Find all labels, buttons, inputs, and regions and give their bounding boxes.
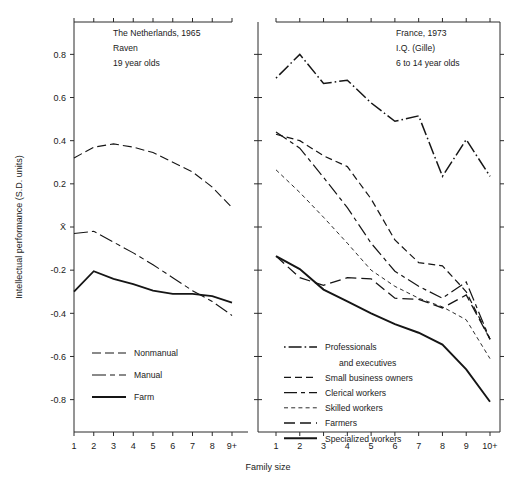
left-panel-title-line: 19 year olds bbox=[113, 58, 160, 68]
x-tick-label: 7 bbox=[190, 441, 195, 451]
x-tick-label: 10+ bbox=[482, 441, 497, 451]
legend-label-r-5: Specialized workers bbox=[325, 434, 401, 444]
y-tick-label: -0.2 bbox=[50, 265, 66, 275]
left-panel-title-line: The Netherlands, 1965 bbox=[113, 28, 201, 38]
x-tick-label: 5 bbox=[150, 441, 155, 451]
y-tick-label: 0.8 bbox=[53, 50, 66, 60]
figure-container: 0.80.60.40.2X̄-0.2-0.4-0.6-0.8123456789+… bbox=[0, 0, 511, 488]
y-tick-label: -0.4 bbox=[50, 309, 66, 319]
legend-label-r-1: Small business owners bbox=[325, 373, 413, 383]
chart-background bbox=[0, 0, 511, 488]
x-tick-label: 8 bbox=[210, 441, 215, 451]
two-panel-line-chart: 0.80.60.40.2X̄-0.2-0.4-0.6-0.8123456789+… bbox=[0, 0, 511, 488]
legend-label-r-0-cont: and executives bbox=[339, 358, 396, 368]
y-tick-label: 0.2 bbox=[53, 179, 66, 189]
x-tick-label: 4 bbox=[131, 441, 136, 451]
y-tick-label: -0.8 bbox=[50, 395, 66, 405]
right-panel-title-line: France, 1973 bbox=[396, 28, 447, 38]
x-tick-label: 2 bbox=[91, 441, 96, 451]
legend-label-1: Manual bbox=[134, 370, 162, 380]
right-panel-title-line: 6 to 14 year olds bbox=[396, 58, 460, 68]
legend-label-r-3: Skilled workers bbox=[325, 403, 383, 413]
x-tick-label: 7 bbox=[416, 441, 421, 451]
legend-label-2: Farm bbox=[134, 392, 154, 402]
y-tick-label: -0.6 bbox=[50, 352, 66, 362]
x-tick-label: 1 bbox=[71, 441, 76, 451]
y-tick-label: 0.4 bbox=[53, 136, 66, 146]
x-tick-label: 1 bbox=[273, 441, 278, 451]
x-axis-title: Family size bbox=[245, 462, 290, 472]
legend-label-r-0: Professionals bbox=[325, 342, 377, 352]
x-tick-label: 2 bbox=[297, 441, 302, 451]
legend-label-0: Nonmanual bbox=[134, 348, 178, 358]
x-tick-label: 8 bbox=[440, 441, 445, 451]
legend-label-r-4: Farmers bbox=[325, 418, 357, 428]
y-axis-title: Intellectual performance (S.D. units) bbox=[14, 155, 24, 299]
y-tick-label: 0.6 bbox=[53, 93, 66, 103]
left-panel-title-line: Raven bbox=[113, 43, 138, 53]
x-tick-label: 6 bbox=[170, 441, 175, 451]
legend-label-r-2: Clerical workers bbox=[325, 388, 386, 398]
x-tick-label: 3 bbox=[111, 441, 116, 451]
x-tick-label: 9 bbox=[464, 441, 469, 451]
right-panel-title-line: I.Q. (Gille) bbox=[396, 43, 435, 53]
y-tick-label: X̄ bbox=[60, 222, 66, 232]
x-tick-label: 9+ bbox=[227, 441, 237, 451]
